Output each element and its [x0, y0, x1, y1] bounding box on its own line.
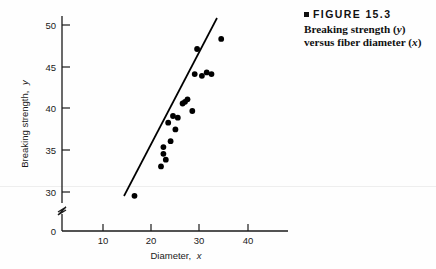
data-point: [175, 115, 181, 121]
caption-line-1: Breaking strength (y): [304, 23, 430, 36]
x-tick-label-30: 30: [194, 235, 205, 246]
data-point: [209, 71, 215, 77]
figure-label: FIGURE 15.3: [313, 8, 391, 20]
x-axis-title-variable: x: [196, 250, 203, 261]
data-point: [218, 36, 224, 42]
y-tick-label-45: 45: [45, 62, 56, 73]
x-tick-label-20: 20: [146, 235, 157, 246]
square-marker-icon: [304, 12, 309, 17]
data-point: [163, 157, 169, 163]
data-point: [194, 46, 200, 52]
caption-line-2: versus fiber diameter (x): [304, 36, 430, 49]
y-origin-label: 0: [51, 226, 56, 237]
figure-label-line: FIGURE 15.3: [304, 8, 430, 21]
x-tick-label-10: 10: [98, 235, 109, 246]
data-point: [165, 120, 171, 126]
x-tick-label-40: 40: [243, 235, 254, 246]
data-point: [132, 193, 138, 199]
figure-caption-text: Breaking strength (y) versus fiber diame…: [304, 23, 430, 50]
x-axis-title: Diameter, x: [150, 250, 202, 261]
caption-line-2-variable: x: [412, 36, 418, 48]
y-tick-label-40: 40: [45, 103, 56, 114]
caption-line-2-text: versus fiber diameter: [304, 36, 406, 48]
data-point: [199, 73, 205, 79]
data-point: [173, 126, 179, 132]
data-point: [189, 108, 195, 114]
data-point: [161, 151, 167, 157]
data-point: [161, 144, 167, 150]
y-tick-label-30: 30: [45, 187, 56, 198]
y-tick-label-50: 50: [45, 20, 56, 31]
y-axis-break-icon: [58, 207, 66, 215]
figure-caption: FIGURE 15.3 Breaking strength (y) versus…: [304, 8, 430, 50]
x-axis-title-text: Diameter,: [150, 250, 191, 261]
caption-line-1-variable: y: [397, 23, 402, 35]
scatter-markers: [132, 36, 225, 199]
data-point: [168, 138, 174, 144]
y-axis-title-text: Breaking strength,: [19, 91, 30, 168]
data-point: [192, 71, 198, 77]
y-axis-title-variable: y: [19, 79, 30, 86]
data-point: [185, 96, 191, 102]
y-tick-label-35: 35: [45, 145, 56, 156]
x-tick-marks: [103, 224, 248, 231]
figure-container: 50 45 40 35 30 0 10 20 30 40 Diameter, x…: [0, 0, 436, 269]
y-tick-marks: [62, 25, 70, 192]
y-axis-title: Breaking strength, y: [19, 79, 30, 168]
caption-line-1-text: Breaking strength: [304, 23, 390, 35]
regression-line: [124, 18, 217, 196]
data-point: [158, 164, 164, 170]
